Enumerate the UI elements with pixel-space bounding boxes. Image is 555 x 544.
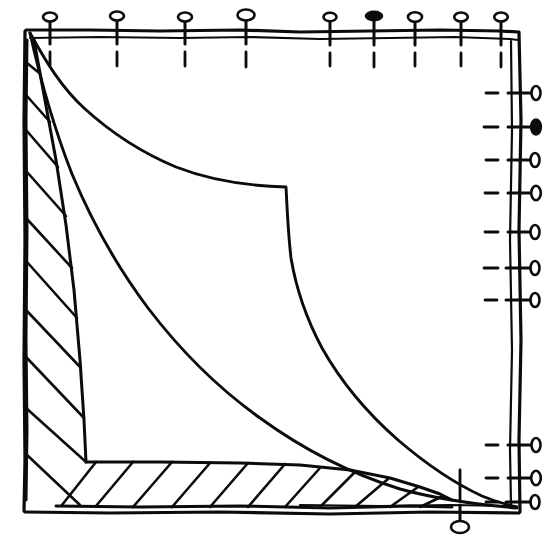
series-lower-curve	[30, 33, 517, 508]
left-hatched-band	[26, 40, 86, 505]
right-pin-marker[interactable]	[486, 153, 540, 167]
top-pin-marker[interactable]	[110, 12, 124, 67]
hatch-stroke	[285, 468, 320, 507]
hatch-stroke	[96, 462, 133, 506]
top-axis-inner	[30, 37, 518, 40]
hatch-stroke	[27, 262, 77, 318]
hatch-stroke	[27, 455, 80, 505]
top-axis-outer	[26, 30, 519, 32]
hatch-stroke	[172, 463, 210, 507]
hatch-stroke	[210, 463, 248, 507]
hatch-stroke	[26, 310, 81, 368]
series-upper-curve	[30, 33, 517, 507]
right-axis-outer	[519, 33, 521, 512]
right-pin-marker[interactable]	[485, 186, 541, 200]
right-pin-marker[interactable]	[486, 471, 541, 485]
hatch-stroke	[248, 464, 285, 507]
hatch-stroke	[320, 472, 355, 507]
right-pin-marker[interactable]	[485, 225, 540, 239]
right-pin-marker[interactable]	[486, 86, 541, 100]
left-band-outer-edge	[26, 40, 27, 500]
hatch-stroke	[62, 462, 96, 505]
right-axis-inner	[510, 41, 512, 505]
chart-figure: Hand-drawn sketch of two decaying curves…	[0, 0, 555, 544]
hatch-stroke	[26, 408, 86, 462]
top-pin-marker[interactable]	[408, 12, 422, 66]
hand-drawn-plot	[0, 0, 555, 544]
hatch-stroke	[133, 462, 172, 507]
right-pin-marker[interactable]	[486, 438, 541, 452]
top-pin-marker[interactable]	[238, 10, 255, 68]
axis-frame	[24, 30, 521, 514]
bottom-axis-outer	[25, 512, 519, 514]
bottom-hatched-band	[56, 462, 452, 508]
right-pin-marker[interactable]	[484, 261, 540, 275]
top-pin-marker[interactable]	[454, 13, 468, 67]
hatch-stroke	[27, 358, 84, 418]
top-pin-marker[interactable]	[178, 13, 192, 67]
